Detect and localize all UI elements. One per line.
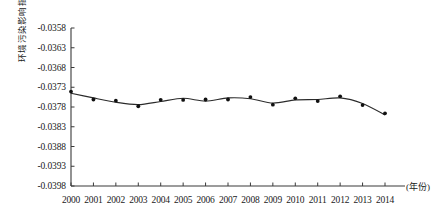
- y-axis-tick-label: -0.0383: [14, 122, 66, 132]
- data-point-marker: [204, 98, 208, 102]
- y-axis-tick-label: -0.0388: [14, 142, 66, 152]
- data-point-marker: [226, 98, 230, 102]
- y-axis-tick-label: -0.0378: [14, 102, 66, 112]
- data-point-marker: [159, 98, 163, 102]
- data-line-series: [71, 93, 385, 115]
- x-axis-title: (年份): [406, 182, 430, 192]
- data-point-marker: [92, 98, 96, 102]
- chart-axes: [71, 28, 405, 186]
- data-point-marker: [181, 98, 185, 102]
- y-axis-tick-label: -0.0373: [14, 82, 66, 92]
- chart-plot-area: [0, 0, 441, 214]
- y-axis-tick-label: -0.0398: [14, 181, 66, 191]
- data-point-marker: [136, 104, 140, 108]
- y-axis-title: 环境污染影响指数: [18, 0, 27, 62]
- data-point-marker: [338, 94, 342, 98]
- y-axis-tick-label: -0.0368: [14, 63, 66, 73]
- y-axis-tick-label: -0.0393: [14, 161, 66, 171]
- data-point-marker: [271, 103, 275, 107]
- data-point-marker: [383, 111, 387, 115]
- data-point-marker: [249, 95, 253, 99]
- data-point-marker: [316, 99, 320, 103]
- chart-container: -0.0358-0.0363-0.0368-0.0373-0.0378-0.03…: [0, 0, 441, 214]
- data-point-marker: [361, 103, 365, 107]
- data-point-marker: [69, 90, 73, 94]
- x-axis-tick-label: 2014: [371, 195, 399, 205]
- data-point-marker: [293, 96, 297, 100]
- data-point-marker: [114, 99, 118, 103]
